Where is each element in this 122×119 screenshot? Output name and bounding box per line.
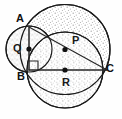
label-P: P <box>72 35 79 46</box>
label-R: R <box>62 77 70 88</box>
label-C: C <box>106 63 114 74</box>
point-R-dot <box>62 67 67 72</box>
label-A: A <box>16 13 24 24</box>
point-Q-dot <box>26 46 31 51</box>
geometry-figure: A B C P Q R <box>0 0 122 119</box>
label-B: B <box>17 71 25 82</box>
point-P-dot <box>62 47 67 52</box>
label-Q: Q <box>13 43 22 54</box>
